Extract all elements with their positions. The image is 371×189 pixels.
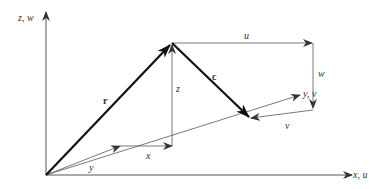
v-component-arrow: [251, 110, 313, 118]
z-axis-label: z, w: [18, 13, 34, 23]
u-label: u: [244, 31, 249, 41]
r-vector-label: r: [103, 96, 107, 106]
y-axis-label: y, v: [303, 89, 316, 99]
x-axis-label: x, u: [353, 170, 367, 180]
c-vector-label: c: [212, 72, 216, 82]
y-component-arrow: [46, 146, 120, 175]
v-label: v: [285, 121, 289, 131]
w-label: w: [318, 69, 325, 79]
x-label: x: [146, 151, 150, 161]
z-label: z: [176, 84, 180, 94]
c-vector: [172, 43, 249, 117]
y-label: y: [89, 163, 93, 173]
